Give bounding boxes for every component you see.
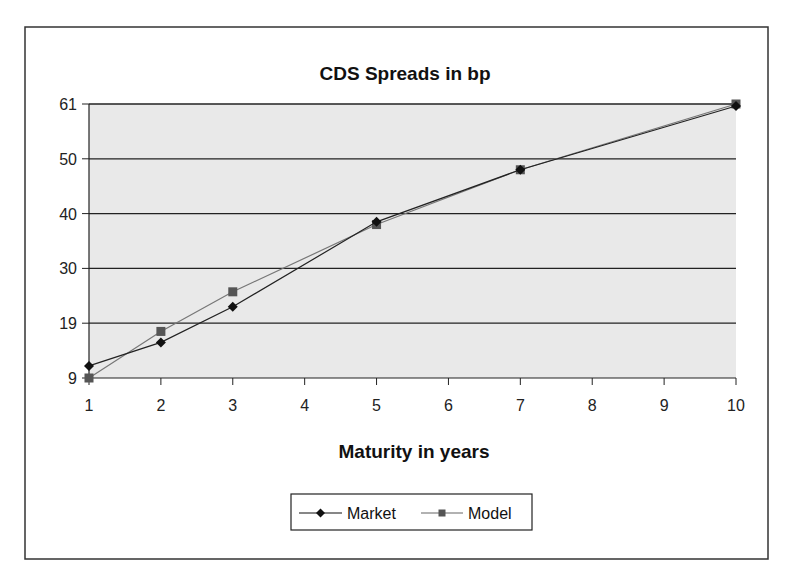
plot-area xyxy=(89,104,736,378)
x-tick-label: 6 xyxy=(444,397,453,414)
square-marker-icon xyxy=(85,374,94,383)
x-tick-label: 3 xyxy=(228,397,237,414)
x-tick-label: 5 xyxy=(372,397,381,414)
y-tick-label: 9 xyxy=(68,370,77,387)
y-tick-label: 50 xyxy=(59,151,77,168)
x-tick-label: 4 xyxy=(300,397,309,414)
x-tick-label: 1 xyxy=(85,397,94,414)
legend: Market Model xyxy=(291,494,532,530)
x-axis-label: Maturity in years xyxy=(339,441,490,462)
x-tick-label: 9 xyxy=(660,397,669,414)
legend-label-market: Market xyxy=(347,505,396,522)
square-marker-icon xyxy=(228,287,237,296)
legend-label-model: Model xyxy=(468,505,512,522)
square-marker-icon xyxy=(439,510,446,517)
x-tick-label: 10 xyxy=(727,397,745,414)
square-marker-icon xyxy=(156,327,165,336)
y-tick-label: 61 xyxy=(59,96,77,113)
x-tick-label: 7 xyxy=(516,397,525,414)
x-tick-label: 8 xyxy=(588,397,597,414)
chart-title: CDS Spreads in bp xyxy=(319,63,490,84)
y-tick-label: 19 xyxy=(59,315,77,332)
x-tick-label: 2 xyxy=(156,397,165,414)
y-tick-label: 40 xyxy=(59,206,77,223)
y-tick-label: 30 xyxy=(59,260,77,277)
chart-figure: CDS Spreads in bp 91930405061 1234567891… xyxy=(0,0,785,584)
